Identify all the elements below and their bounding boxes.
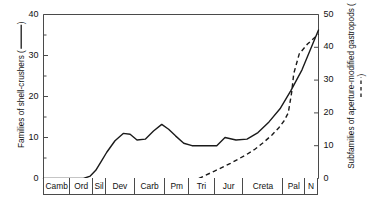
axis-frame (44, 15, 319, 179)
period-label: Jur (223, 181, 235, 191)
period-label: Pal (288, 181, 300, 191)
series-aperture-gastropods-line (199, 34, 319, 178)
period-label: Carb (140, 181, 158, 191)
period-label: Ord (74, 181, 88, 191)
left-tick-label: 30 (17, 50, 39, 60)
period-cell-tri: Tri (189, 178, 215, 194)
period-cell-camb: Camb (44, 178, 70, 194)
figure: Families of shell-crushers ( ) Subfamili… (0, 0, 380, 211)
data-series-group (44, 30, 319, 178)
period-cell-dev: Dev (106, 178, 135, 194)
period-cell-n: N (305, 178, 317, 194)
period-label: Tri (197, 181, 206, 191)
right-tick-label: 0 (324, 173, 346, 183)
period-cell-pm: Pm (165, 178, 189, 194)
right-tick-label: 40 (324, 41, 346, 51)
left-axis-ticks (44, 15, 49, 179)
geologic-period-axis: CambOrdSilDevCarbPmTriJurCretaPalN (43, 178, 318, 195)
period-label: Creta (253, 181, 273, 191)
right-tick-label: 10 (324, 140, 346, 150)
right-tick-label: 20 (324, 107, 346, 117)
period-label: Dev (112, 181, 127, 191)
period-label: Pm (170, 181, 183, 191)
left-tick-label: 20 (17, 91, 39, 101)
right-tick-label: 30 (324, 74, 346, 84)
period-cell-creta: Creta (243, 178, 283, 194)
period-cell-carb: Carb (135, 178, 165, 194)
period-label: Camb (46, 181, 68, 191)
left-tick-label: 10 (17, 132, 39, 142)
period-cell-pal: Pal (283, 178, 305, 194)
left-tick-label: 40 (17, 9, 39, 19)
series-shell-crushers-line (44, 30, 319, 178)
period-cell-jur: Jur (215, 178, 243, 194)
period-cell-ord: Ord (70, 178, 93, 194)
period-label: N (308, 181, 314, 191)
period-label: Sil (94, 181, 103, 191)
period-cell-sil: Sil (93, 178, 106, 194)
right-tick-label: 50 (324, 9, 346, 19)
left-tick-label: 0 (17, 173, 39, 183)
